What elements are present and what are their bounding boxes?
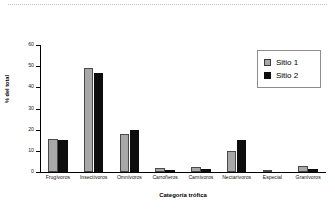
x-axis-label-2: Insectívoros — [76, 174, 112, 180]
legend-box: Sitio 1Sitio 2 — [257, 50, 321, 88]
bar-sitio-2-4 — [165, 170, 175, 172]
y-axis-tick-label-60: 60 — [12, 42, 34, 47]
bar-sitio-1-3 — [120, 134, 130, 172]
x-axis-label-1: Frugívoros — [40, 174, 76, 180]
bar-sitio-1-5 — [191, 167, 201, 172]
x-axis-line — [40, 172, 326, 173]
bar-sitio-1-8 — [298, 166, 308, 172]
figure-page: 0102030405060 % del total Categoría tróf… — [0, 0, 335, 212]
y-axis-tick-label-10: 10 — [12, 148, 34, 153]
x-axis-label-5: Carnívoros — [183, 174, 219, 180]
y-axis-tick-0 — [36, 172, 40, 173]
bar-sitio-2-2 — [94, 73, 104, 172]
legend-swatch-sitio-2 — [264, 72, 271, 79]
bar-sitio-1-7 — [263, 170, 273, 172]
y-axis-tick-label-50: 50 — [12, 63, 34, 68]
legend-label-2: Sitio 2 — [276, 71, 298, 80]
x-axis-label-8: Granívoros — [290, 174, 326, 180]
legend-item-2: Sitio 2 — [264, 69, 314, 82]
x-axis-title: Categoría trófica — [40, 192, 326, 199]
bar-sitio-1-6 — [227, 151, 237, 172]
y-axis-tick-label-30: 30 — [12, 106, 34, 111]
x-axis-label-7: Especial — [255, 174, 291, 180]
y-axis-tick-label-0: 0 — [12, 169, 34, 174]
bar-sitio-2-1 — [58, 140, 68, 172]
bar-sitio-2-8 — [308, 169, 318, 172]
bar-sitio-1-4 — [155, 168, 165, 172]
y-axis-tick-label-20: 20 — [12, 127, 34, 132]
y-axis-title: % del total — [4, 44, 10, 134]
bar-sitio-1-2 — [84, 68, 94, 172]
x-axis-label-6: Nectarívoros — [219, 174, 255, 180]
x-axis-label-4: Carroñeros — [147, 174, 183, 180]
legend-label-1: Sitio 1 — [276, 58, 298, 67]
bar-chart-figure: 0102030405060 % del total Categoría tróf… — [0, 0, 335, 212]
legend-swatch-sitio-1 — [264, 59, 271, 66]
bar-sitio-1-1 — [48, 139, 58, 172]
bar-sitio-2-3 — [130, 130, 140, 172]
bar-sitio-2-6 — [237, 140, 247, 172]
bar-sitio-2-5 — [201, 169, 211, 172]
x-axis-label-3: Omnívoros — [112, 174, 148, 180]
legend-item-1: Sitio 1 — [264, 56, 314, 69]
y-axis-tick-label-40: 40 — [12, 84, 34, 89]
